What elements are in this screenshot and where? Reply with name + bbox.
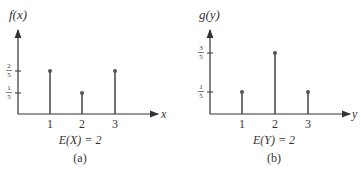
xtick-label-a-2: 2 xyxy=(79,117,85,131)
chart-a: f(x) x 2 5 1 5 1 2 3 E(X) = 2 (a) xyxy=(6,7,167,165)
svg-text:5: 5 xyxy=(199,92,203,100)
expectation-a: E(X) = 2 xyxy=(58,133,102,147)
xtick-label-b-2: 2 xyxy=(272,117,278,131)
chart-b: g(y) y 3 5 1 5 1 2 3 E(Y) = 2 (b) xyxy=(198,7,358,165)
expectation-b: E(Y) = 2 xyxy=(252,133,295,147)
xtick-label-a-1: 1 xyxy=(47,117,53,131)
x-axis-label-b: y xyxy=(351,107,358,121)
stem-head-a-2 xyxy=(80,91,84,95)
y-axis-label-b: g(y) xyxy=(199,7,220,22)
caption-a: (a) xyxy=(73,151,86,165)
stem-head-a-1 xyxy=(48,69,52,73)
svg-text:5: 5 xyxy=(7,71,11,79)
caption-b: (b) xyxy=(267,151,281,165)
svg-text:5: 5 xyxy=(7,93,11,101)
ytick-label-a-num: 2 xyxy=(7,62,11,70)
figure: f(x) x 2 5 1 5 1 2 3 E(X) = 2 (a) g(y) y xyxy=(0,0,361,172)
svg-text:5: 5 xyxy=(199,53,203,61)
svg-text:1: 1 xyxy=(199,83,203,91)
y-axis-label-a: f(x) xyxy=(9,7,27,22)
xtick-label-b-1: 1 xyxy=(239,117,245,131)
x-axis-label-a: x xyxy=(160,107,167,121)
stem-head-b-1 xyxy=(240,90,244,94)
xtick-label-b-3: 3 xyxy=(305,117,311,131)
xtick-label-a-3: 3 xyxy=(112,117,118,131)
stem-head-a-3 xyxy=(113,69,117,73)
svg-text:1: 1 xyxy=(7,84,11,92)
stem-head-b-3 xyxy=(306,90,310,94)
svg-text:3: 3 xyxy=(199,44,203,52)
stem-head-b-2 xyxy=(273,51,277,55)
